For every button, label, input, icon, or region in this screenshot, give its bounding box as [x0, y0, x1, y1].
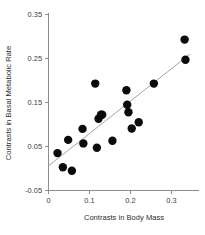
data-point [98, 111, 106, 119]
plot-canvas: 0.35 0.25 0.15 0.05 -0.05 Contrasts in B… [0, 0, 205, 235]
data-point [93, 144, 101, 152]
data-point [59, 163, 67, 171]
y-axis-group: 0.35 0.25 0.15 0.05 -0.05 Contrasts in B… [4, 10, 49, 195]
data-point [108, 137, 116, 145]
data-point [150, 79, 158, 87]
regression-line [49, 54, 190, 166]
y-tick-label: 0.15 [28, 98, 42, 107]
data-point [181, 56, 189, 64]
data-points-group [53, 35, 189, 175]
y-tick-label: 0.05 [28, 142, 42, 151]
x-tick-label: 0.1 [84, 196, 94, 205]
data-point [122, 86, 130, 94]
data-point [128, 124, 136, 132]
data-point [124, 108, 132, 116]
y-tick-label: 0.35 [28, 10, 42, 19]
data-point [78, 125, 86, 133]
data-point [135, 118, 143, 126]
data-point [123, 101, 131, 109]
x-axis-ticks [49, 191, 172, 195]
regression-line-group [49, 54, 190, 166]
y-axis-title: Contrasts in Basal Metabolic Rate [4, 46, 13, 160]
scatter-plot-figure: 0.35 0.25 0.15 0.05 -0.05 Contrasts in B… [0, 0, 205, 235]
y-axis-tick-labels: 0.35 0.25 0.15 0.05 -0.05 [25, 10, 42, 195]
x-axis-title: Contrasts in Body Mass [84, 213, 164, 222]
data-point [68, 167, 76, 175]
x-axis-tick-labels: 0 0.1 0.2 0.3 [46, 196, 176, 205]
x-tick-label: 0.2 [125, 196, 135, 205]
y-tick-label: -0.05 [25, 186, 42, 195]
x-tick-label: 0 [46, 196, 50, 205]
data-point [53, 149, 61, 157]
data-point [79, 139, 87, 147]
x-axis-group: 0 0.1 0.2 0.3 Contrasts in Body Mass [46, 191, 199, 223]
data-point [180, 35, 188, 43]
y-axis-ticks [45, 15, 49, 191]
data-point [64, 136, 72, 144]
data-point [91, 79, 99, 87]
y-tick-label: 0.25 [28, 54, 42, 63]
x-tick-label: 0.3 [166, 196, 176, 205]
